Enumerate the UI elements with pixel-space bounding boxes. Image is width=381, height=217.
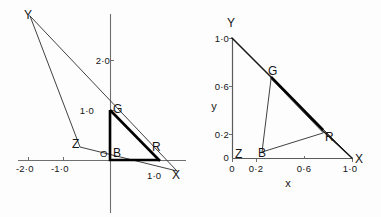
right-thick-segment-g-r bbox=[271, 77, 323, 130]
right-panel: Y Z G B R X 0 0·2 0·6 1·0 0 0·2 0·6 1·0 … bbox=[211, 16, 363, 189]
left-origin-label: O bbox=[100, 148, 108, 159]
right-point-label-G: G bbox=[268, 64, 277, 78]
right-y-axis-label: y bbox=[211, 100, 217, 112]
left-xtick-label--1-0: -1·0 bbox=[51, 163, 69, 174]
left-point-label-Z: Z bbox=[72, 137, 79, 151]
left-ytick-label-2-0: 2·0 bbox=[96, 55, 110, 66]
right-point-label-Y: Y bbox=[227, 16, 235, 30]
right-xtick-label-0-6: 0·6 bbox=[297, 163, 311, 174]
right-point-label-Z: Z bbox=[235, 147, 242, 161]
left-panel: Y Z G B R X O -2·0 -1·0 1·0 1·0 2·0 bbox=[16, 8, 186, 213]
right-triangle-gbr bbox=[262, 79, 323, 152]
right-ytick-label-0: 0 bbox=[224, 152, 229, 163]
figure-svg: Y Z G B R X O -2·0 -1·0 1·0 1·0 2·0 bbox=[0, 0, 381, 217]
right-ytick-label-0-6: 0·6 bbox=[215, 81, 229, 92]
left-xtick-label--2-0: -2·0 bbox=[16, 163, 34, 174]
right-xtick-label-1-0: 1·0 bbox=[343, 163, 357, 174]
left-point-label-G: G bbox=[113, 102, 122, 116]
left-point-label-B: B bbox=[113, 146, 121, 160]
left-xtick-label-1-0: 1·0 bbox=[147, 170, 161, 181]
right-xtick-label-0-2: 0·2 bbox=[249, 163, 263, 174]
right-xtick-label-0: 0 bbox=[229, 163, 234, 174]
right-thick-segment-y-g bbox=[232, 38, 272, 78]
figure-root: Y Z G B R X O -2·0 -1·0 1·0 1·0 2·0 bbox=[0, 0, 381, 217]
right-ytick-label-0-2: 0·2 bbox=[215, 129, 229, 140]
left-point-label-Y: Y bbox=[24, 8, 32, 22]
left-point-label-R: R bbox=[152, 140, 161, 154]
left-ytick-label-1-0: 1·0 bbox=[80, 105, 94, 116]
right-ytick-label-1-0: 1·0 bbox=[215, 33, 229, 44]
left-point-label-X: X bbox=[172, 168, 180, 182]
right-x-axis-label: x bbox=[285, 177, 291, 189]
right-point-label-R: R bbox=[325, 130, 334, 144]
right-point-label-B: B bbox=[258, 146, 266, 160]
